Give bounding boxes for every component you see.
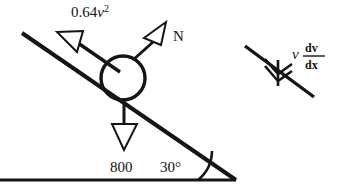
incline-line [22,33,236,180]
normal-vector-shaft [133,42,153,60]
normal-arrowhead-icon [144,22,166,45]
friction-label: 0.64v2 [71,3,109,20]
friction-arrowhead-icon [57,31,83,52]
normal-force-label: N [173,28,184,44]
acceleration-double-barb-icon [265,59,292,86]
diagram-canvas: 0.64v2 N 800 30° v dv dx [0,0,343,193]
particle-circle [101,56,145,100]
angle-label: 30° [160,159,181,175]
physics-diagram: 0.64v2 N 800 30° v dv dx [0,0,343,193]
weight-label: 800 [110,159,133,175]
acceleration-numerator: dv [305,41,318,55]
friction-coefficient: 0.64 [71,4,98,20]
acceleration-denominator: dx [305,58,318,72]
weight-arrowhead-icon [112,124,137,150]
acceleration-velocity-var: v [292,46,299,62]
friction-exponent: 2 [104,3,109,14]
